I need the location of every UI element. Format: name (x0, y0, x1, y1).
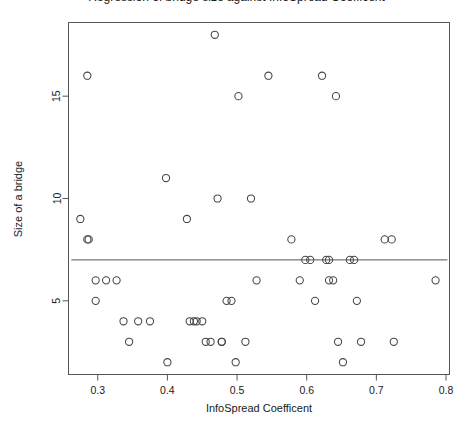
data-point (247, 195, 254, 202)
data-point (332, 93, 339, 100)
data-point (388, 236, 395, 243)
data-point (92, 277, 99, 284)
data-point (232, 359, 239, 366)
data-point (357, 338, 364, 345)
data-point (125, 338, 132, 345)
x-axis-ticks (98, 375, 446, 381)
data-point (218, 338, 225, 345)
data-point (214, 195, 221, 202)
data-point (288, 236, 295, 243)
data-point (186, 318, 193, 325)
data-point (84, 72, 91, 79)
data-point (265, 72, 272, 79)
data-point (353, 297, 360, 304)
scatter-plot-figure: Regression of bridge size against InfoSp… (0, 0, 473, 442)
plot-canvas: 51015 0.30.40.50.60.70.8 InfoSpread Coef… (0, 0, 473, 442)
data-point (146, 318, 153, 325)
y-axis-tick-labels: 51015 (51, 90, 63, 304)
data-point (242, 338, 249, 345)
data-point (339, 359, 346, 366)
y-axis-label: Size of a bridge (12, 161, 24, 237)
x-axis-label: InfoSpread Coefficent (206, 402, 312, 414)
y-tick-label: 15 (51, 90, 63, 102)
data-point (183, 215, 190, 222)
data-point (390, 338, 397, 345)
data-point (164, 359, 171, 366)
data-point (120, 318, 127, 325)
data-point (334, 338, 341, 345)
x-axis-tick-labels: 0.30.40.50.60.70.8 (90, 384, 453, 396)
data-points (77, 31, 439, 366)
data-point (318, 72, 325, 79)
x-tick-label: 0.8 (439, 384, 454, 396)
data-point (92, 297, 99, 304)
plot-frame (69, 23, 450, 375)
data-point (199, 318, 206, 325)
data-point (162, 174, 169, 181)
x-tick-label: 0.6 (299, 384, 314, 396)
data-point (296, 277, 303, 284)
data-point (235, 93, 242, 100)
data-point (113, 277, 120, 284)
data-point (432, 277, 439, 284)
y-axis-ticks (63, 96, 69, 301)
x-tick-label: 0.4 (160, 384, 175, 396)
y-tick-label: 5 (51, 298, 63, 304)
data-point (228, 297, 235, 304)
data-point (211, 31, 218, 38)
data-point (103, 277, 110, 284)
data-point (330, 277, 337, 284)
data-point (311, 297, 318, 304)
data-point (325, 277, 332, 284)
data-point (135, 318, 142, 325)
data-point (253, 277, 260, 284)
data-point (77, 215, 84, 222)
x-tick-label: 0.7 (369, 384, 384, 396)
data-point (381, 236, 388, 243)
data-point (207, 338, 214, 345)
x-tick-label: 0.5 (230, 384, 245, 396)
y-tick-label: 10 (51, 193, 63, 205)
x-tick-label: 0.3 (90, 384, 105, 396)
